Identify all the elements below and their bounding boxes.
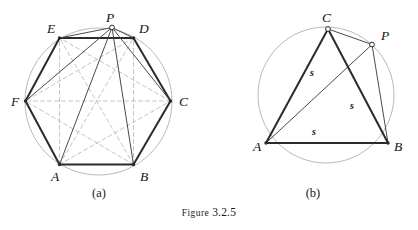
- vertex-label-A: A: [252, 139, 262, 154]
- vertex-label-P: P: [105, 10, 114, 25]
- panel-b-sublabel: (b): [306, 186, 321, 200]
- geometry-figure-svg: ABCDEFP (a) ABCP sss (b): [0, 0, 418, 230]
- vertex-marker-B: [132, 163, 135, 166]
- vertex-label-C: C: [179, 94, 189, 109]
- vertex-marker-C: [169, 99, 172, 102]
- vertex-label-C: C: [322, 10, 332, 25]
- side-length-label-1: s: [309, 67, 314, 78]
- panel-a-group: ABCDEFP (a): [10, 10, 189, 200]
- segment-AP: [266, 45, 372, 144]
- panel-a-circumcircle: [25, 28, 172, 175]
- panel-a-dashed-diagonals: [26, 38, 171, 165]
- vertex-marker-B: [386, 141, 389, 144]
- panel-b-segment-labels: sss: [309, 67, 354, 137]
- side-length-label-3: s: [311, 126, 316, 137]
- segment-AC: [266, 29, 328, 143]
- side-length-label-2: s: [349, 100, 354, 111]
- vertex-marker-D: [132, 36, 135, 39]
- vertex-label-B: B: [140, 169, 148, 184]
- panel-b-group: ABCP sss (b): [252, 10, 402, 200]
- vertex-marker-A: [264, 141, 267, 144]
- segment-PA: [60, 28, 113, 165]
- vertex-label-E: E: [46, 21, 56, 36]
- vertex-marker-P: [370, 42, 375, 47]
- figure-container: ABCDEFP (a) ABCP sss (b) Figure 3.2.5: [0, 0, 418, 230]
- panel-a-sublabel: (a): [92, 186, 106, 200]
- figure-caption-prefix: Figure: [182, 208, 209, 218]
- vertex-label-B: B: [394, 139, 402, 154]
- vertex-marker-P: [110, 25, 115, 30]
- vertex-marker-A: [58, 163, 61, 166]
- segment-PB: [112, 28, 134, 165]
- figure-caption: Figure 3.2.5: [0, 206, 418, 218]
- vertex-marker-C: [326, 27, 331, 32]
- vertex-label-P: P: [380, 28, 389, 43]
- vertex-label-D: D: [138, 21, 149, 36]
- figure-caption-number: 3.2.5: [212, 206, 236, 218]
- vertex-label-F: F: [10, 94, 20, 109]
- vertex-marker-F: [24, 99, 27, 102]
- segment-PD: [112, 28, 134, 39]
- vertex-label-A: A: [50, 169, 60, 184]
- vertex-marker-E: [58, 36, 61, 39]
- panel-a-vertex-markers: [24, 25, 172, 166]
